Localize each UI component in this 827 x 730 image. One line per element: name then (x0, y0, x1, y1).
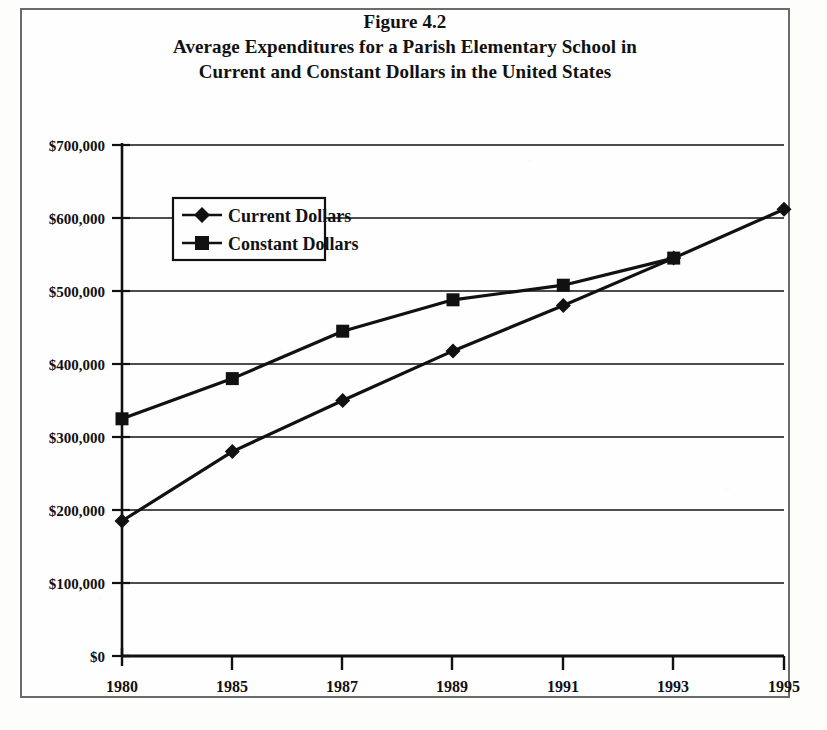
x-tick-label: 1991 (547, 678, 579, 695)
diamond-marker (225, 444, 240, 459)
y-tick-label: $700,000 (49, 138, 105, 154)
y-tick-label: $300,000 (49, 430, 105, 446)
square-marker (226, 372, 239, 385)
x-axis-labels: 1980 1985 1987 1989 1991 1993 1995 (106, 678, 800, 695)
diamond-marker (446, 343, 461, 358)
figure-page: Figure 4.2 Average Expenditures for a Pa… (0, 0, 827, 730)
square-marker (447, 293, 460, 306)
y-tick-label: $400,000 (49, 357, 105, 373)
series-constant-dollars (116, 252, 681, 426)
diamond-marker (556, 298, 571, 313)
line-chart: $700,000 $600,000 $500,000 $400,000 $300… (0, 0, 827, 730)
legend-label-constant: Constant Dollars (228, 234, 359, 254)
square-marker (557, 279, 570, 292)
x-tick-marks (122, 648, 784, 670)
y-tick-label: $0 (90, 649, 105, 665)
diamond-marker (777, 202, 792, 217)
x-tick-label: 1993 (657, 678, 689, 695)
x-tick-label: 1987 (326, 678, 358, 695)
x-tick-label: 1995 (768, 678, 800, 695)
y-tick-label: $100,000 (49, 576, 105, 592)
square-marker (667, 252, 680, 265)
diamond-marker (115, 514, 130, 529)
y-tick-label: $600,000 (49, 211, 105, 227)
legend-label-current: Current Dollars (228, 206, 351, 226)
square-marker (116, 412, 129, 425)
square-marker (195, 236, 209, 250)
diamond-marker (335, 393, 350, 408)
x-tick-label: 1985 (216, 678, 248, 695)
series-line (122, 258, 674, 419)
x-tick-label: 1989 (436, 678, 468, 695)
y-tick-label: $500,000 (49, 284, 105, 300)
chart-legend: Current Dollars Constant Dollars (173, 198, 359, 260)
square-marker (336, 325, 349, 338)
y-tick-label: $200,000 (49, 503, 105, 519)
x-tick-label: 1980 (106, 678, 138, 695)
y-axis-labels: $700,000 $600,000 $500,000 $400,000 $300… (49, 138, 105, 665)
